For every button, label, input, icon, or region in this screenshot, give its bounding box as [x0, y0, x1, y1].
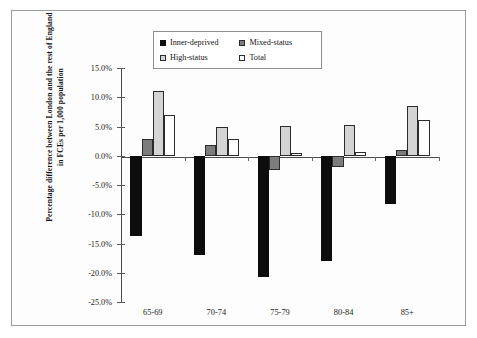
- bar: [385, 156, 396, 204]
- bar: [332, 156, 343, 168]
- y-axis-tick-label: -25.0%: [88, 298, 112, 307]
- bar: [291, 153, 302, 156]
- legend-swatch-icon: [160, 55, 166, 61]
- y-axis-tick: 0.0%: [117, 156, 125, 157]
- y-axis-tick: -10.0%: [117, 214, 125, 215]
- legend-label: Mixed-status: [249, 38, 292, 47]
- y-axis-tick-label: 15.0%: [91, 64, 112, 73]
- y-axis-tick-label: 5.0%: [95, 122, 112, 131]
- legend-row: High-status Total: [160, 50, 315, 65]
- bar: [344, 125, 355, 156]
- y-axis-tick-label: 10.0%: [91, 93, 112, 102]
- x-axis-tick: [312, 157, 313, 161]
- x-axis-category-label: 85+: [401, 308, 414, 317]
- y-axis-tick: -5.0%: [117, 185, 125, 186]
- x-axis-tick: [375, 157, 376, 161]
- bar: [280, 126, 291, 156]
- bar: [321, 156, 332, 261]
- y-axis-tick: 15.0%: [117, 68, 125, 69]
- legend-swatch-icon: [239, 55, 245, 61]
- bar: [407, 106, 418, 156]
- y-axis-tick: 10.0%: [117, 97, 125, 98]
- legend-label: High-status: [170, 53, 208, 62]
- bar: [142, 139, 153, 155]
- y-axis-tick-label: 0.0%: [95, 151, 112, 160]
- y-axis-tick-label: -5.0%: [92, 181, 112, 190]
- bar: [216, 127, 227, 156]
- legend-entry-inner-deprived: Inner-deprived: [160, 38, 239, 47]
- legend-entry-high-status: High-status: [160, 53, 239, 62]
- bar: [153, 91, 164, 156]
- y-axis-tick-label: -15.0%: [88, 239, 112, 248]
- bar: [164, 115, 175, 156]
- x-axis-tick: [185, 157, 186, 161]
- x-axis-tick: [248, 157, 249, 161]
- bar: [396, 150, 407, 156]
- bar: [258, 156, 269, 277]
- figure-frame: Percentage difference between London and…: [11, 10, 466, 326]
- bar: [205, 145, 216, 156]
- x-axis-category-label: 70-74: [207, 308, 227, 317]
- legend-swatch-icon: [239, 40, 245, 46]
- plot-area: 15.0%10.0%5.0%0.0%-5.0%-10.0%-15.0%-20.0…: [121, 68, 439, 302]
- chart-screenshot: Percentage difference between London and…: [0, 0, 477, 338]
- y-axis-tick: -25.0%: [117, 302, 125, 303]
- y-axis-tick-label: -10.0%: [88, 210, 112, 219]
- bar: [194, 156, 205, 255]
- bar: [228, 139, 239, 156]
- y-axis-tick: -20.0%: [117, 273, 125, 274]
- bar: [418, 120, 429, 156]
- x-axis-category-label: 65-69: [143, 308, 163, 317]
- legend-entry-mixed-status: Mixed-status: [239, 38, 315, 47]
- legend-swatch-icon: [160, 40, 166, 46]
- y-axis-tick-label: -20.0%: [88, 268, 112, 277]
- x-axis-category-label: 80-84: [334, 308, 354, 317]
- bar: [269, 156, 280, 170]
- legend-entry-total: Total: [239, 53, 315, 62]
- bar: [355, 152, 366, 156]
- legend-label: Total: [249, 53, 266, 62]
- y-axis-title: Percentage difference between London and…: [45, 12, 73, 222]
- legend-row: Inner-deprived Mixed-status: [160, 35, 315, 50]
- x-axis-tick: [439, 157, 440, 161]
- legend-label: Inner-deprived: [170, 38, 218, 47]
- y-axis-tick: -15.0%: [117, 244, 125, 245]
- x-axis-category-label: 75-79: [270, 308, 290, 317]
- y-axis-tick: 5.0%: [117, 127, 125, 128]
- chart-legend: Inner-deprived Mixed-status High-status …: [153, 31, 322, 69]
- bar: [130, 156, 141, 236]
